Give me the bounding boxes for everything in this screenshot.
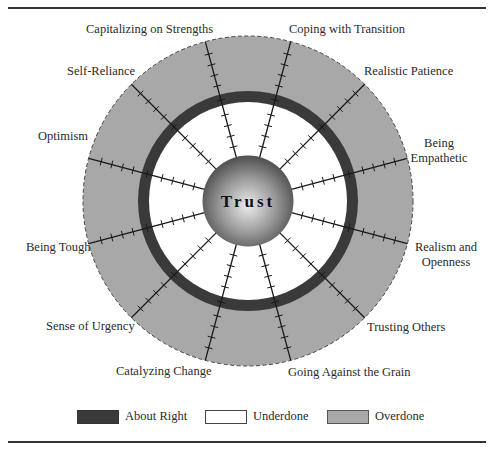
label-line: Openness	[408, 255, 484, 270]
legend-item-underdone: Underdone	[205, 409, 309, 424]
label-being-empathetic: Being Empathetic	[408, 136, 470, 166]
label-line: Being	[408, 136, 470, 151]
about-right-swatch	[77, 410, 119, 424]
legend-label: Underdone	[253, 409, 309, 424]
legend-label: About Right	[125, 409, 187, 424]
legend: About Right Underdone Overdone	[0, 409, 494, 425]
legend-label: Overdone	[375, 409, 424, 424]
label-sense-of-urgency: Sense of Urgency	[46, 319, 135, 334]
label-going-against-the-grain: Going Against the Grain	[288, 365, 411, 380]
label-realistic-patience: Realistic Patience	[364, 64, 453, 79]
label-trusting-others: Trusting Others	[367, 320, 445, 335]
overdone-swatch	[327, 410, 369, 424]
label-capitalizing-on-strengths: Capitalizing on Strengths	[86, 22, 213, 37]
label-catalyzing-change: Catalyzing Change	[116, 364, 211, 379]
legend-item-about-right: About Right	[77, 409, 187, 424]
center-label: Trust	[221, 192, 275, 211]
legend-item-overdone: Overdone	[327, 409, 424, 424]
underdone-swatch	[205, 410, 247, 424]
label-line: Realism and	[408, 240, 484, 255]
label-realism-and-openness: Realism and Openness	[408, 240, 484, 270]
bottom-rule	[8, 441, 486, 443]
label-optimism: Optimism	[38, 129, 88, 144]
label-being-tough: Being Tough	[26, 240, 91, 255]
label-self-reliance: Self-Reliance	[67, 64, 135, 79]
label-line: Empathetic	[408, 151, 470, 166]
label-coping-with-transition: Coping with Transition	[289, 22, 405, 37]
